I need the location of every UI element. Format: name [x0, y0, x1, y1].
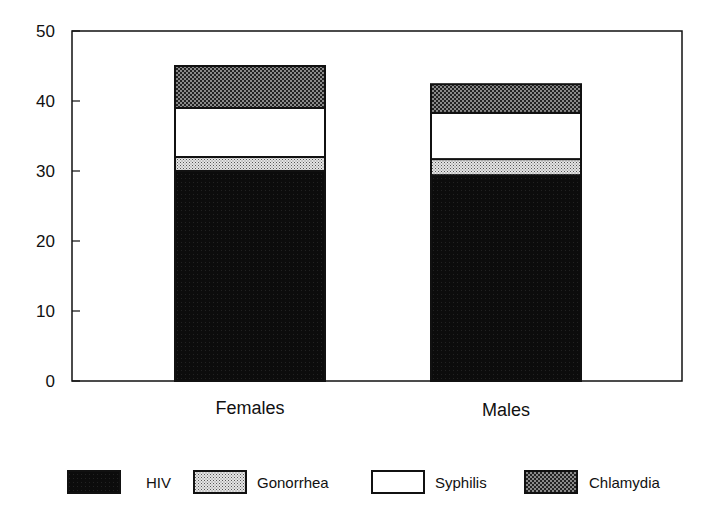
bar-segment-chlamydia [175, 66, 325, 108]
bar-segment-syphilis [175, 108, 325, 157]
legend-item-syphilis: Syphilis [372, 471, 487, 493]
legend-item-chlamydia: Chlamydia [525, 471, 661, 493]
legend: HIVGonorrheaSyphilisChlamydia [68, 471, 661, 493]
legend-swatch [194, 471, 246, 493]
y-axis: 01020304050 [36, 22, 80, 391]
bar-segment-hiv [431, 175, 581, 381]
legend-label: Chlamydia [589, 474, 661, 491]
legend-swatch [525, 471, 577, 493]
stacked-bar-chart: 01020304050 FemalesMales HIVGonorrheaSyp… [0, 0, 701, 526]
x-axis-labels: FemalesMales [215, 398, 530, 420]
bar-males [431, 84, 581, 381]
bar-segment-hiv [175, 171, 325, 381]
bar-segment-chlamydia [431, 84, 581, 113]
legend-swatch [372, 471, 424, 493]
y-tick-label: 30 [36, 162, 55, 181]
legend-label: Syphilis [435, 474, 487, 491]
x-category-label: Males [482, 400, 530, 420]
legend-swatch [68, 471, 120, 493]
legend-item-gonorrhea: Gonorrhea [194, 471, 329, 493]
plot-area-frame [72, 31, 682, 381]
bars [175, 66, 581, 381]
y-tick-label: 20 [36, 232, 55, 251]
x-category-label: Females [215, 398, 284, 418]
y-tick-label: 50 [36, 22, 55, 41]
bar-segment-syphilis [431, 113, 581, 159]
y-tick-label: 40 [36, 92, 55, 111]
legend-label: Gonorrhea [257, 474, 329, 491]
legend-label: HIV [146, 474, 171, 491]
legend-item-hiv: HIV [68, 471, 171, 493]
y-tick-label: 0 [46, 372, 55, 391]
y-tick-label: 10 [36, 302, 55, 321]
bar-segment-gonorrhea [431, 159, 581, 175]
bar-segment-gonorrhea [175, 157, 325, 171]
bar-females [175, 66, 325, 381]
